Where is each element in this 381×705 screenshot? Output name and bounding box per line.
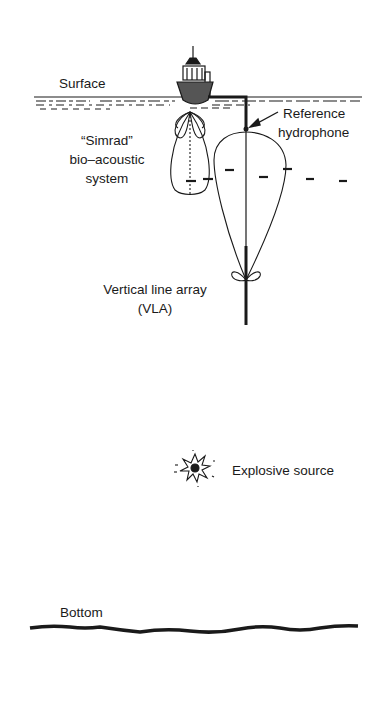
surface-label: Surface [59, 74, 106, 93]
reference-hydrophone-dot [244, 127, 249, 132]
simrad-line1: “Simrad” [62, 131, 152, 150]
simrad-label: “Simrad” bio–acoustic system [62, 131, 152, 188]
explosion-icon [174, 450, 215, 487]
simrad-line3: system [62, 169, 152, 188]
reference-hydrophone-label: Reference hydrophone [278, 104, 349, 142]
fish-icons [186, 169, 347, 181]
seabed-line [30, 626, 358, 632]
sonar-beam-pattern [171, 112, 209, 195]
vertical-line-array [244, 127, 249, 326]
ship-icon [177, 46, 213, 104]
explosive-source-label: Explosive source [232, 461, 334, 480]
reference-line2: hydrophone [278, 123, 349, 142]
reference-line1: Reference [278, 104, 349, 123]
vla-label: Vertical line array (VLA) [90, 280, 220, 318]
array-beam-pattern [214, 132, 286, 281]
vla-line2: (VLA) [90, 299, 220, 318]
cable [208, 97, 246, 128]
vla-line1: Vertical line array [90, 280, 220, 299]
bottom-label: Bottom [60, 603, 103, 622]
reference-arrow [250, 112, 278, 127]
simrad-line2: bio–acoustic [62, 150, 152, 169]
